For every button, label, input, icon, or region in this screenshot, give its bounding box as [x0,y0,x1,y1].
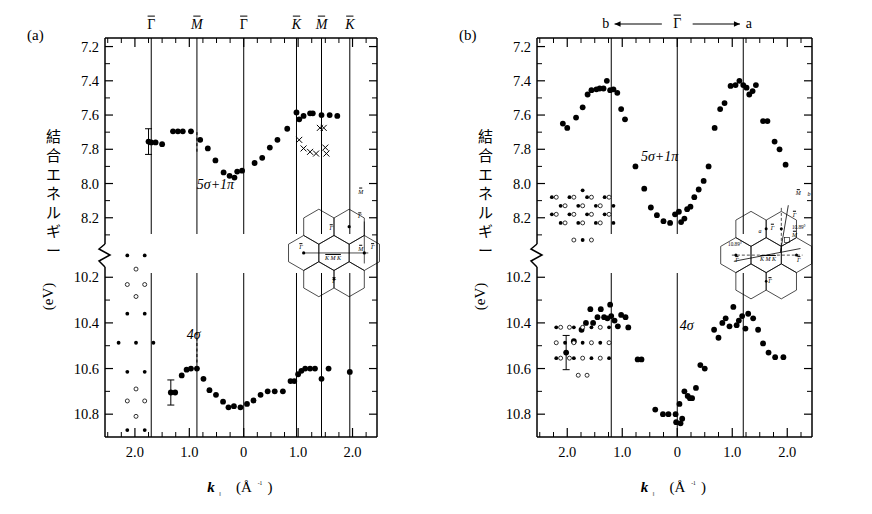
bz-label-0: M [795,190,802,197]
y-axis-title-char: 結 [478,129,493,145]
data-point [598,306,604,312]
leed-spot-filled [576,221,580,225]
top-label-M-1: M [190,16,204,32]
data-point [301,113,307,119]
x-axis-title-close: ) [701,479,706,496]
data-point [213,392,219,398]
data-point [744,85,750,91]
leed-spot-open [598,325,602,329]
bz-label-4: Γ [770,224,775,231]
data-point [238,404,244,410]
top-symmetry-labels: bΓa [602,15,752,31]
band-label-1: 4σ [680,318,695,333]
leed-spot-filled [607,325,611,329]
leed-spot-filled [612,204,616,208]
top-label-M-1-glyph: M [190,17,204,32]
bz-label-0-glyph: M [357,189,364,195]
leed-spot-filled [143,312,147,316]
inset-brillouin-zone-b: MbΓ10.89°ΓaM10.89°ΓK M KΓΓ [721,190,812,299]
data-point-cross [313,151,319,157]
data-point [604,78,610,84]
y-axis-title-char: ー [46,243,61,259]
data-point [743,326,749,332]
data-point [766,350,772,356]
y-axis-title-char: ー [478,243,493,259]
leed-spot-open [559,356,563,360]
plot-frame-1 [531,38,812,437]
leed-spot-open [581,221,585,225]
leed-spot-filled [585,212,589,216]
bz-label-8: Γ [734,257,739,264]
x-ticklabel: 1.0 [180,444,198,460]
series-lower-band [168,366,353,411]
leed-spot-filled [585,195,589,199]
band-structure-figure: 7.27.47.67.88.08.210.210.410.610.82.01.0… [0,0,872,514]
bz-label-2-glyph: Γ [329,225,334,231]
leed-spot-filled [568,195,572,199]
data-point [666,411,672,417]
leed-spot-open [572,341,576,345]
leed-spot-filled [143,428,147,432]
leed-spot-open [125,399,129,403]
data-point [716,335,722,341]
leed-spot-filled [563,341,567,345]
band-label-0: 5σ+1π [197,177,235,192]
y-ticklabel: 10.2 [506,269,531,285]
top-label-Γ-2: Γ [240,16,248,32]
data-point [272,388,278,394]
leed-spot-open [589,238,593,242]
bz-label-4: M [357,245,364,252]
x-axis-title-sub: ‖ [653,491,655,497]
leed-spot-open [572,195,576,199]
bz-gamma-dot [348,225,351,228]
data-point [573,115,579,121]
leed-spot-open [589,212,593,216]
data-point [701,178,707,184]
leed-spot-open [554,341,558,345]
leed-spot-filled [143,254,147,258]
leed-spot-open [607,212,611,216]
leed-spot-open [567,356,571,360]
leed-spot-open [134,267,138,271]
leed-spot-open [589,195,593,199]
leed-spot-filled [125,428,129,432]
leed-spot-filled [550,195,554,199]
x-ticklabel: 2.0 [126,444,144,460]
data-point [625,325,631,331]
leed-spot-filled [143,370,147,374]
leed-spot-filled [559,221,563,225]
data-point [319,112,325,118]
panel-tag: (b) [459,27,477,44]
data-point [334,113,340,119]
bz-label-1: Γ [357,213,362,220]
data-point [652,407,658,413]
leed-spot-filled [581,341,585,345]
data-point [772,354,778,360]
data-point [633,164,639,170]
y-axis-title-char: 結 [46,129,61,145]
bz-label-7-glyph: Γ [331,278,336,284]
data-point [595,314,601,320]
bz-label-5: a [758,228,761,234]
y-ticklabel: 8.0 [81,176,99,192]
data-point [251,398,257,404]
leed-spot-open [143,399,147,403]
bz-label-6: K M K [324,254,342,261]
y-ticklabel: 7.2 [81,39,99,55]
leed-spot-open [567,325,571,329]
bz-label-2: Γ [329,225,334,232]
bz-label-6: M [791,231,798,238]
leed-spot-open [134,414,138,418]
x-axis-title-unit: (Å [236,479,252,496]
axis-ticks-1: 7.27.47.67.88.08.210.210.410.610.82.01.0… [506,38,812,460]
data-point-cross [323,151,329,157]
top-label-a: a [746,16,753,31]
bz-label-9-glyph: K M K [759,256,777,262]
y-ticklabel: 10.6 [74,361,99,377]
data-point [234,169,240,175]
data-point [291,378,297,384]
leed-spot-open [563,204,567,208]
leed-spot-filled [134,341,138,345]
top-label-Γ-0: Γ [147,16,155,32]
data-point [723,315,729,321]
